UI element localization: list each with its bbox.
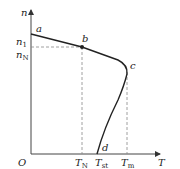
x-axis-label: T <box>158 157 166 168</box>
y-tick-nN: nN <box>16 49 29 62</box>
x-tick-Tst: Tst <box>95 157 108 169</box>
point-d-label: d <box>102 142 108 153</box>
x-tick-TN: TN <box>75 157 88 169</box>
y-axis-label: n <box>21 7 27 18</box>
speed-torque-diagram: n T O n1 nN TN Tst Tm a b c d <box>0 0 180 169</box>
y-tick-n1: n1 <box>16 36 27 49</box>
point-b-marker <box>80 45 84 49</box>
point-b-label: b <box>82 33 88 44</box>
point-c-label: c <box>130 60 136 71</box>
point-a-label: a <box>36 23 42 34</box>
origin-label: O <box>18 157 26 168</box>
x-tick-Tm: Tm <box>121 157 135 169</box>
characteristic-curve <box>31 34 127 154</box>
